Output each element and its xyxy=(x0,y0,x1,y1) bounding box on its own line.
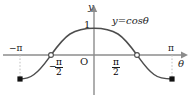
negative-sign: − xyxy=(49,62,57,71)
x-tick-label-pos-pi: π xyxy=(168,44,174,53)
x-axis xyxy=(3,52,188,59)
endpoint-markers xyxy=(17,76,174,81)
x-tick-label-neg-half-pi: − π 2 xyxy=(55,58,63,78)
origin-label: O xyxy=(80,57,88,67)
fraction-denominator: 2 xyxy=(112,68,120,77)
equation-label: y=cosθ xyxy=(112,16,149,26)
y-max-tick-label: 1 xyxy=(84,20,90,30)
x-axis-label: θ xyxy=(178,59,184,69)
x-tick-label-neg-pi: −π xyxy=(9,44,22,53)
x-tick-label-pos-half-pi: π 2 xyxy=(112,58,120,78)
y-axis-label: y xyxy=(88,2,94,12)
cosine-function-figure: y θ 1 O y=cosθ −π π − π 2 π 2 xyxy=(0,0,189,103)
endpoint-guide-lines xyxy=(20,55,172,79)
y-axis xyxy=(91,5,97,95)
plot-area xyxy=(0,0,189,103)
cosine-curve xyxy=(20,28,172,79)
